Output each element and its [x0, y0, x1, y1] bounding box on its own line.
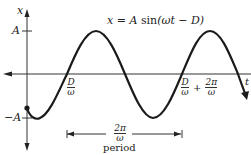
equation-equals: = [117, 14, 126, 27]
marker-second-zero-num1: D [181, 78, 189, 87]
equation-argument: (ωt − D) [157, 14, 204, 27]
marker-second-zero-plus: + [193, 82, 201, 93]
marker-second-zero: D ω + 2π ω [181, 78, 217, 97]
marker-first-zero: D ω [67, 78, 75, 97]
marker-second-zero-den1: ω [181, 88, 189, 97]
period-fraction: 2π ω [110, 124, 130, 143]
equation-lhs: x [107, 14, 113, 27]
period-fraction-num: 2π [110, 124, 130, 133]
marker-first-zero-den: ω [67, 88, 75, 97]
tick-label-amplitude: A [12, 24, 20, 37]
equation-amplitude: A [129, 14, 137, 27]
marker-first-zero-num: D [67, 78, 75, 87]
tick-label-neg-amplitude: −A [4, 111, 21, 124]
vertical-axis-label: x [17, 4, 23, 17]
equation-function: sin [141, 14, 157, 27]
period-label: period [103, 142, 136, 153]
marker-second-zero-num2: 2π [205, 78, 217, 87]
marker-second-zero-den2: ω [205, 88, 217, 97]
equation: x = A sin(ωt − D) [107, 14, 204, 27]
horizontal-axis-label: t [245, 76, 249, 87]
